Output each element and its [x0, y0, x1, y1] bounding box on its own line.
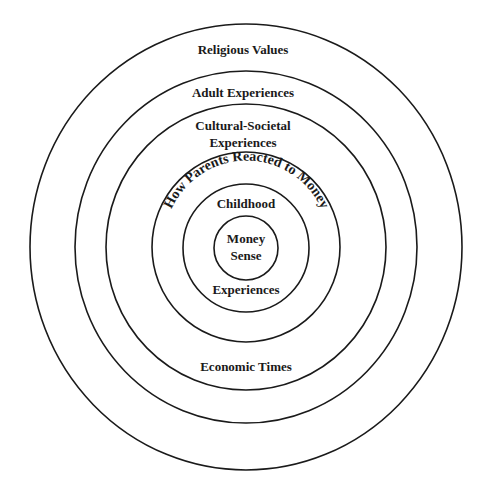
label-childhood: Childhood	[217, 196, 276, 211]
label-sense: Sense	[230, 248, 261, 263]
label-religious-values: Religious Values	[198, 42, 289, 57]
label-experiences-childhood: Experiences	[212, 282, 279, 297]
label-cultural-societal-line2: Experiences	[209, 135, 276, 150]
label-money: Money	[227, 231, 266, 246]
label-cultural-societal-line1: Cultural-Societal	[195, 118, 291, 133]
label-economic-times: Economic Times	[200, 359, 292, 374]
label-adult-experiences: Adult Experiences	[192, 85, 294, 100]
money-sense-diagram: Religious Values Adult Experiences Cultu…	[0, 0, 483, 495]
